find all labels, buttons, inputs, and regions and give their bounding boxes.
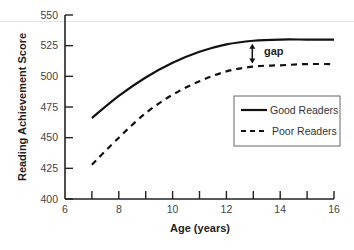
x-tick-label: 12: [221, 203, 233, 215]
legend-good-readers: Good Readers: [270, 104, 338, 116]
x-tick-label: 16: [328, 203, 340, 215]
y-tick-label: 475: [40, 101, 58, 113]
arrow-up-icon: [249, 44, 255, 49]
x-tick-label: 8: [116, 203, 122, 215]
x-tick-label: 6: [62, 203, 68, 215]
gap-annotation: gap: [249, 44, 284, 64]
x-tick-label: 14: [274, 203, 286, 215]
y-tick-label: 450: [40, 131, 58, 143]
x-tick-label: 10: [167, 203, 179, 215]
y-tick-label: 500: [40, 70, 58, 82]
legend-poor-readers: Poor Readers: [272, 125, 337, 137]
arrow-down-icon: [249, 59, 255, 64]
x-axis-title: Age (years): [170, 222, 230, 234]
line-chart: 4004254504755005255506810121416 gap Good…: [0, 0, 354, 250]
y-tick-label: 525: [40, 39, 58, 51]
gap-label: gap: [264, 45, 284, 57]
legend: Good Readers Poor Readers: [234, 96, 340, 146]
y-tick-label: 550: [40, 9, 58, 21]
y-tick-label: 400: [40, 193, 58, 205]
y-tick-label: 425: [40, 162, 58, 174]
y-axis-title: Reading Achievement Score: [16, 33, 28, 181]
